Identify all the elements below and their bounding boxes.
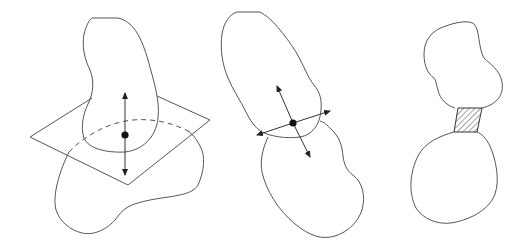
hatched-neck [454,108,482,132]
lower-blob-middle [261,121,363,238]
cutting-plane [30,96,210,185]
upper-blob-right [424,22,502,108]
tangent-arrow-right [293,111,330,123]
panel-middle [221,12,363,238]
contact-point-middle [289,119,296,126]
dashed-intersection-curve [69,120,190,152]
normal-arrow-up-middle [277,86,293,123]
tangent-arrow-left [257,123,293,135]
normal-arrow-down-middle [293,123,310,157]
upper-blob-left [82,18,158,152]
lower-blob-left [55,131,204,234]
contact-point-left [121,131,128,138]
panel-right [411,22,502,223]
figure-canvas [0,0,524,249]
panel-left [30,18,210,234]
diagram-svg [0,0,524,249]
lower-blob-right [411,132,497,223]
